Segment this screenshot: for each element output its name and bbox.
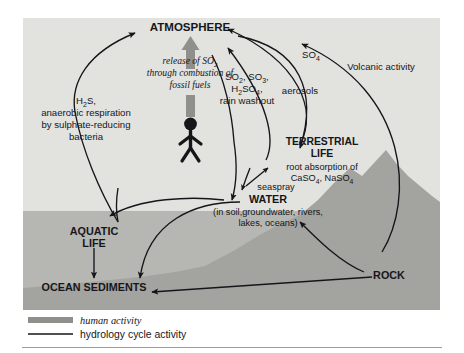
node-rock: ROCK [373,269,405,281]
annotation-seaspray: seaspray [257,182,295,192]
node-water: WATER [249,193,287,205]
annotation-h2s-line3: by sulphate-reducing [41,119,130,130]
annotation-h2s-line2: anaerobic respiration [41,107,131,118]
annotation-human-release-line3: fossil fuels [170,79,211,90]
annotation-aerosols: aerosols [282,85,318,96]
node-water-sub-line2: lakes, oceans) [238,218,297,228]
legend-label-hydrology-cycle-activity: hydrology cycle activity [80,329,187,340]
annotation-volcanic-activity: Volcanic activity [347,61,415,72]
annotation-h2s-line4: bacteria [69,131,104,142]
annotation-root-absorption-line1: root absorption of [286,162,358,172]
legend-label-human-activity: human activity [80,315,142,326]
node-aquatic-life-line2: LIFE [82,237,105,249]
annotation-rain-washout: rain washout [220,95,275,106]
node-aquatic-life-line1: AQUATIC [70,225,119,237]
annotation-human-release-line2: through combustion of [147,67,235,78]
node-atmosphere: ATMOSPHERE [150,21,231,33]
annotation-root-absorption-line2: CaSO4, NaSO4 [291,173,354,185]
sulfur-cycle-figure: ATMOSPHERE release of SO2 through combus… [0,0,464,353]
annotation-h2s-line1: H2S, [76,95,96,108]
legend: human activity hydrology cycle activity [28,315,187,340]
node-terrestrial-life-line1: TERRESTRIAL [286,136,359,147]
node-ocean-sediments: OCEAN SEDIMENTS [42,281,147,293]
diagram-canvas: ATMOSPHERE release of SO2 through combus… [0,0,464,353]
node-terrestrial-life-line2: LIFE [311,148,334,159]
legend-swatch-human-activity [28,317,73,323]
node-water-sub-line1: (in soil,groundwater, rivers, [213,207,323,217]
